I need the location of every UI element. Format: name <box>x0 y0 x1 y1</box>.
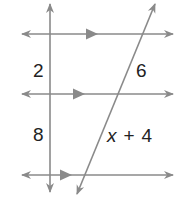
label-left-upper: 2 <box>33 60 44 81</box>
label-variable: x <box>106 125 118 146</box>
label-constant: 4 <box>142 125 153 146</box>
parallel-line-top <box>22 29 173 40</box>
parallel-lines-diagram: 2 8 6 x+4 <box>0 0 179 204</box>
parallel-mark-icon <box>73 89 85 100</box>
parallel-mark-icon <box>86 29 98 40</box>
label-right-lower: x+4 <box>106 125 153 146</box>
parallel-line-bottom <box>22 170 173 181</box>
label-left-lower: 8 <box>33 124 44 145</box>
label-operator: + <box>124 125 135 146</box>
parallel-mark-icon <box>60 170 72 181</box>
parallel-line-middle <box>22 89 173 100</box>
label-right-upper: 6 <box>136 60 147 81</box>
